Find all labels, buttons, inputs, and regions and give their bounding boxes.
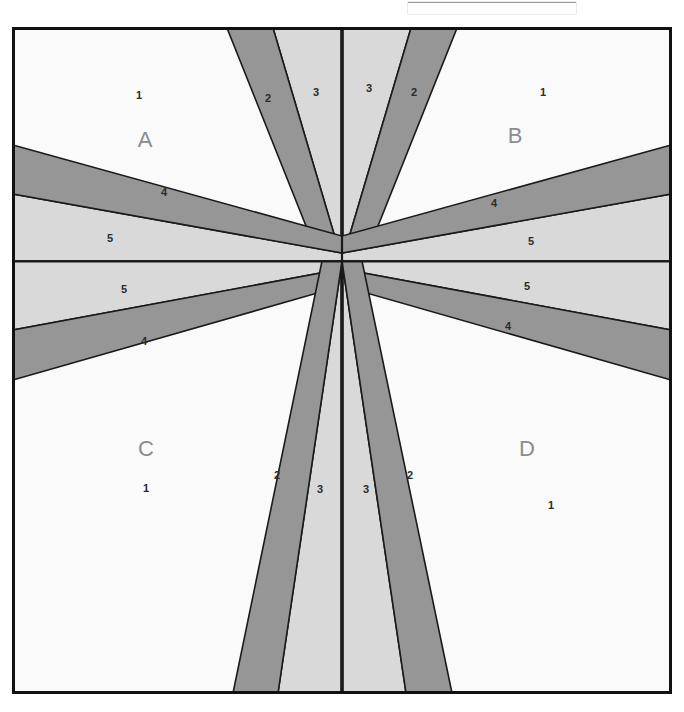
quadrant-label-b: B <box>508 123 523 148</box>
band-label-b-4: 4 <box>491 197 498 209</box>
quadrant-label-d: D <box>519 436 535 461</box>
band-label-a-5: 5 <box>107 232 113 244</box>
band-label-c-3: 3 <box>317 483 323 495</box>
band-label-b-5: 5 <box>528 235 534 247</box>
band-label-c-2: 2 <box>274 469 280 481</box>
quadrant-band-diagram: ABCD 12345321455412354321 <box>0 0 684 712</box>
band-label-b-3: 3 <box>366 82 372 94</box>
band-label-c-5: 5 <box>121 283 127 295</box>
band-label-a-2: 2 <box>265 92 271 104</box>
band-label-a-4: 4 <box>161 186 168 198</box>
band-label-d-1: 1 <box>548 499 554 511</box>
figure-canvas: ABCD 12345321455412354321 <box>0 0 684 712</box>
band-label-d-2: 2 <box>407 469 413 481</box>
band-label-c-1: 1 <box>143 482 149 494</box>
quadrant-label-a: A <box>138 127 153 152</box>
band-label-d-5: 5 <box>524 280 530 292</box>
band-label-c-4: 4 <box>141 335 148 347</box>
band-label-d-3: 3 <box>363 483 369 495</box>
band-label-a-3: 3 <box>313 86 319 98</box>
quadrant-label-c: C <box>138 436 154 461</box>
band-label-b-2: 2 <box>411 86 417 98</box>
band-label-b-1: 1 <box>540 86 546 98</box>
band-label-a-1: 1 <box>136 89 142 101</box>
band-label-d-4: 4 <box>505 320 512 332</box>
